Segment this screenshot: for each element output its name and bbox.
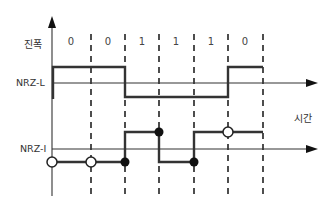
hollow-dot-icon <box>223 127 233 137</box>
filled-dot-icon <box>155 128 164 137</box>
nrz-l-label: NRZ-L <box>16 77 45 88</box>
bit-label: 0 <box>61 36 81 47</box>
amplitude-label: 진폭 <box>24 36 42 51</box>
time-arrow-icon <box>306 79 318 87</box>
signal-diagram <box>0 0 328 210</box>
bit-label: 1 <box>166 36 186 47</box>
filled-dot-icon <box>121 158 130 167</box>
axis-arrow-up-icon <box>48 16 56 28</box>
filled-dot-icon <box>190 158 199 167</box>
nrz-i-label: NRZ-I <box>20 143 46 154</box>
bit-boundaries <box>91 34 263 196</box>
bit-label: 1 <box>132 36 152 47</box>
time-arrow-icon-2 <box>306 145 318 153</box>
bit-label: 1 <box>201 36 221 47</box>
bit-label: 0 <box>235 36 255 47</box>
time-label: 시간 <box>294 110 312 125</box>
hollow-dot-icon <box>86 157 96 167</box>
bit-label: 0 <box>98 36 118 47</box>
hollow-dot-icon <box>47 157 57 167</box>
